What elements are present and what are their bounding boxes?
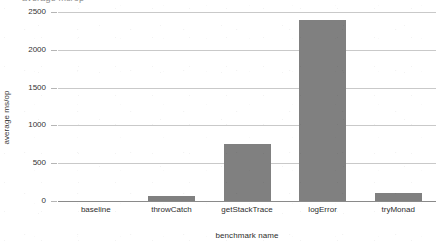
x-axis-tick-label: getStackTrace <box>209 205 285 215</box>
clipped-title-text: average ms/op <box>22 0 84 3</box>
y-axis-tick-mark <box>51 12 57 13</box>
y-axis-tick-mark <box>51 125 57 126</box>
y-axis-tick-mark <box>51 201 57 202</box>
y-axis-tick-mark <box>51 163 57 164</box>
x-axis-title: benchmark name <box>58 231 436 240</box>
y-axis-tick-label: 0 <box>6 197 46 205</box>
y-axis-tick-label: 1000 <box>6 121 46 129</box>
plot-area: 05001000150020002500 <box>58 12 436 201</box>
x-axis-tick-label: logError <box>285 205 361 215</box>
gridline <box>58 201 436 202</box>
gridline <box>58 50 436 51</box>
y-axis-tick-mark <box>51 50 57 51</box>
gridline <box>58 125 436 126</box>
clipped-title-strip: average ms/op <box>0 0 444 5</box>
y-axis-title-label: average ms/op <box>2 90 11 144</box>
bar-chart-figure: average ms/op average ms/op 050010001500… <box>0 0 444 248</box>
x-axis-tick-labels: baselinethrowCatchgetStackTracelogErrort… <box>58 205 436 217</box>
x-axis-tick-label: baseline <box>58 205 134 215</box>
y-axis-tick-mark <box>51 88 57 89</box>
gridline <box>58 163 436 164</box>
y-axis-tick-label: 2000 <box>6 46 46 54</box>
y-axis-tick-label: 1500 <box>6 84 46 92</box>
y-axis-title: average ms/op <box>0 62 12 172</box>
x-axis-tick-label: tryMonad <box>360 205 436 215</box>
gridline <box>58 12 436 13</box>
x-axis-tick-label: throwCatch <box>134 205 210 215</box>
gridline <box>58 88 436 89</box>
y-axis-tick-label: 500 <box>6 159 46 167</box>
y-axis-tick-label: 2500 <box>6 8 46 16</box>
